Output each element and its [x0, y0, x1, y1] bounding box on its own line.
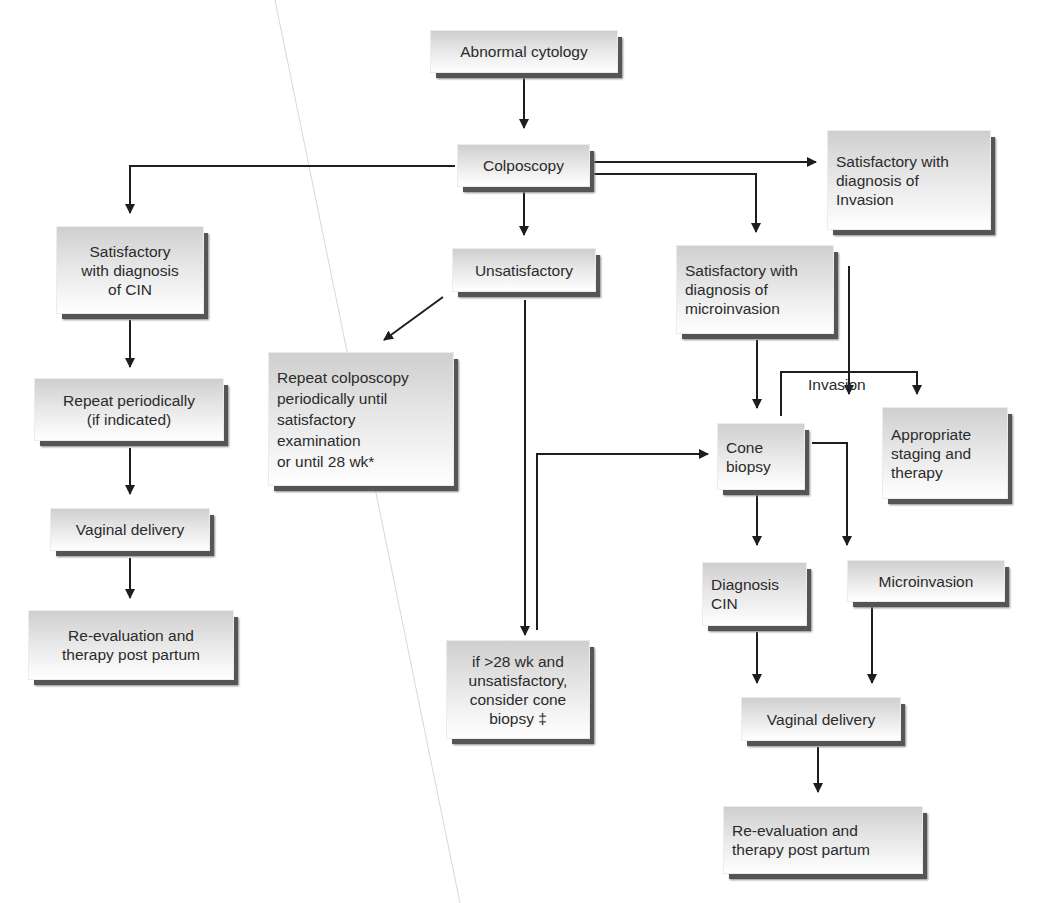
- flowchart: Abnormal cytology Colposcopy Satisfactor…: [0, 0, 1039, 903]
- node-colposcopy: Colposcopy: [457, 144, 590, 187]
- node-satisfactory-microinvasion: Satisfactory with diagnosis of microinva…: [676, 245, 834, 334]
- node-vaginal-delivery-right: Vaginal delivery: [741, 697, 901, 741]
- node-repeat-periodically: Repeat periodically (if indicated): [34, 378, 224, 441]
- node-diagnosis-cin: Diagnosis CIN: [702, 562, 807, 626]
- node-appropriate-staging: Appropriate staging and therapy: [882, 407, 1008, 499]
- node-satisfactory-cin: Satisfactory with diagnosis of CIN: [56, 226, 204, 314]
- node-abnormal-cytology: Abnormal cytology: [430, 30, 618, 73]
- node-microinvasion: Microinvasion: [847, 560, 1005, 602]
- node-satisfactory-invasion: Satisfactory with diagnosis of Invasion: [827, 130, 991, 230]
- node-reevaluation-left: Re-evaluation and therapy post partum: [28, 610, 234, 680]
- node-vaginal-delivery-left: Vaginal delivery: [50, 508, 210, 551]
- node-reevaluation-right: Re-evaluation and therapy post partum: [723, 806, 923, 874]
- edge-label-invasion: Invasion: [808, 376, 866, 394]
- node-repeat-colposcopy: Repeat colposcopy periodically until sat…: [268, 352, 454, 486]
- node-cone-biopsy: Cone biopsy: [717, 423, 805, 490]
- node-over-28-weeks: if >28 wk and unsatisfactory, consider c…: [446, 640, 590, 739]
- node-unsatisfactory: Unsatisfactory: [452, 248, 596, 292]
